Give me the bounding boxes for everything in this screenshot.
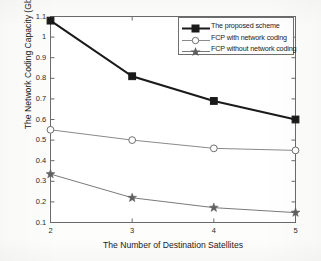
legend-box: The proposed scheme FCP with network cod… — [178, 17, 294, 55]
x-tick-label: 4 — [204, 226, 224, 235]
legend-swatch-proposed-scheme — [181, 20, 211, 31]
legend-label: The proposed scheme — [211, 21, 280, 30]
legend-item[interactable]: The proposed scheme — [179, 20, 293, 31]
legend-label: FCP with network coding — [211, 33, 287, 42]
figure-canvas: 0.10.20.30.40.50.60.70.80.911.1 2345 The… — [0, 0, 321, 261]
legend-item[interactable]: FCP with network coding — [179, 31, 293, 42]
x-tick-label: 3 — [122, 226, 142, 235]
x-tick-label: 5 — [286, 226, 306, 235]
y-axis-title: The Network Coding Capacity (Gbits) — [23, 0, 33, 148]
legend-swatch-fcp-with-network-coding — [181, 32, 211, 43]
legend-label: FCP without network coding — [211, 44, 296, 53]
legend-item[interactable]: FCP without network coding — [179, 43, 293, 54]
x-axis-title: The Number of Destination Satellites — [50, 240, 296, 250]
legend-swatch-fcp-without-network-coding — [181, 43, 211, 54]
y-tick-label: 0.2 — [20, 197, 46, 206]
y-tick-label: 0.3 — [20, 176, 46, 185]
y-tick-label: 0.4 — [20, 156, 46, 165]
x-tick-label: 2 — [41, 226, 61, 235]
